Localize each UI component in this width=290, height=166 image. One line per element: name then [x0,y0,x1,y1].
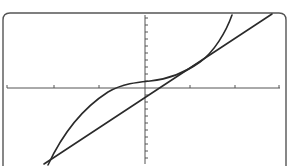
graph-window [0,0,290,166]
tangent-line [44,14,272,164]
x-axis [7,85,280,88]
y-axis [145,15,148,164]
graph-canvas [0,0,290,166]
